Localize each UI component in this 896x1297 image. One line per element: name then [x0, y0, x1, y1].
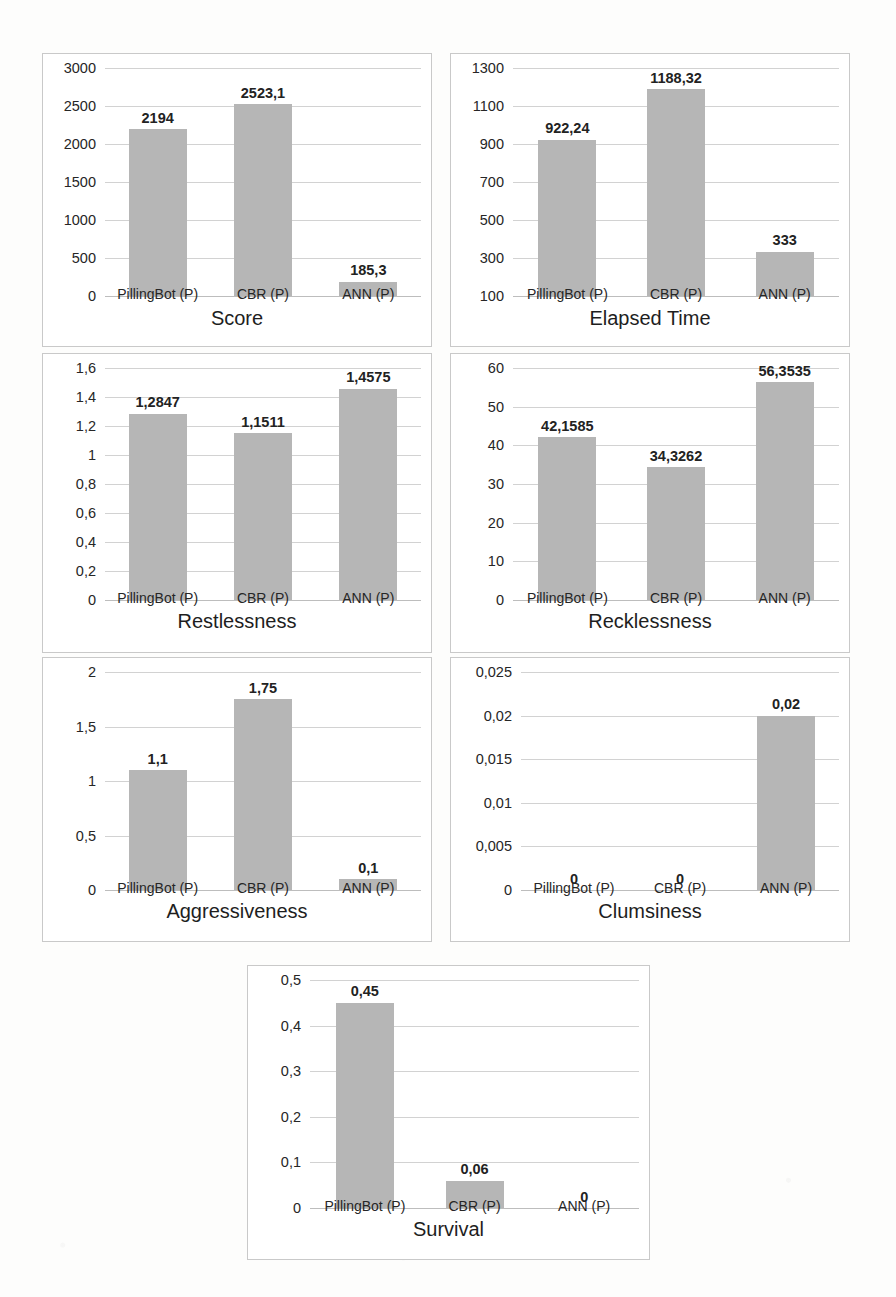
- x-axis-tick-label: ANN (P): [316, 880, 421, 896]
- x-axis-tick-label: PillingBot (P): [105, 590, 210, 606]
- x-axis-tick-label: CBR (P): [622, 286, 731, 302]
- y-axis-tick-label: 100: [480, 289, 504, 304]
- bar-slot: 1,2847: [105, 368, 210, 600]
- bar[interactable]: [647, 467, 705, 600]
- x-axis-tick-label: CBR (P): [210, 880, 315, 896]
- y-axis-tick-label: 0: [88, 883, 96, 898]
- bar[interactable]: [234, 433, 292, 600]
- bar-value-label: 0,45: [351, 984, 379, 999]
- bar-series-clumsiness: 000,02: [521, 672, 839, 890]
- x-axis-tick-label: ANN (P): [733, 880, 839, 896]
- bar[interactable]: [234, 699, 292, 890]
- x-axis-tick-label: CBR (P): [627, 880, 733, 896]
- bar-slot: 0: [529, 980, 639, 1208]
- chart-panel-survival: 00,10,20,30,40,50,450,060PillingBot (P)C…: [247, 965, 650, 1260]
- bar[interactable]: [756, 382, 814, 600]
- bar-series-recklessness: 42,158534,326256,3535: [513, 368, 839, 600]
- chart-title-score: Score: [43, 307, 431, 330]
- x-axis-survival: PillingBot (P)CBR (P)ANN (P): [310, 1198, 639, 1214]
- y-axis-tick-label: 3000: [64, 61, 96, 76]
- y-axis-tick-label: 0: [496, 593, 504, 608]
- y-axis-tick-label: 0,2: [76, 564, 96, 579]
- bar-value-label: 2523,1: [241, 86, 285, 101]
- bar-slot: 2194: [105, 68, 210, 296]
- x-axis-tick-label: ANN (P): [730, 286, 839, 302]
- bar-value-label: 56,3535: [758, 364, 810, 379]
- x-axis-tick-label: CBR (P): [210, 590, 315, 606]
- y-axis-tick-label: 1300: [472, 61, 504, 76]
- y-axis-tick-label: 500: [480, 213, 504, 228]
- bar-slot: 0,45: [310, 980, 420, 1208]
- bar[interactable]: [129, 414, 187, 600]
- plot-area-clumsiness: 00,0050,010,0150,020,025000,02: [521, 672, 839, 890]
- bar[interactable]: [647, 89, 705, 296]
- bar-slot: 1188,32: [622, 68, 731, 296]
- bar[interactable]: [129, 770, 187, 890]
- bar-value-label: 1,2847: [135, 395, 179, 410]
- y-axis-tick-label: 0,015: [476, 752, 512, 767]
- bar-value-label: 0,1: [358, 861, 378, 876]
- chart-panel-recklessness: 010203040506042,158534,326256,3535Pillin…: [450, 353, 850, 653]
- x-axis-tick-label: CBR (P): [210, 286, 315, 302]
- bar-slot: 185,3: [316, 68, 421, 296]
- bar[interactable]: [757, 716, 815, 890]
- chart-title-recklessness: Recklessness: [451, 610, 849, 633]
- x-axis-tick-label: PillingBot (P): [513, 590, 622, 606]
- bar-value-label: 1,1511: [241, 415, 285, 430]
- x-axis-elapsed-time: PillingBot (P)CBR (P)ANN (P): [513, 286, 839, 302]
- y-axis-tick-label: 2500: [64, 99, 96, 114]
- bar-slot: 922,24: [513, 68, 622, 296]
- y-axis-tick-label: 1,5: [76, 719, 96, 734]
- chart-body-elapsed-time: 10030050070090011001300922,241188,32333P…: [451, 54, 849, 346]
- chart-body-score: 05001000150020002500300021942523,1185,3P…: [43, 54, 431, 346]
- y-axis-tick-label: 1: [88, 448, 96, 463]
- chart-body-clumsiness: 00,0050,010,0150,020,025000,02PillingBot…: [451, 658, 849, 941]
- y-axis-tick-label: 0: [88, 289, 96, 304]
- chart-title-survival: Survival: [248, 1218, 649, 1241]
- x-axis-tick-label: CBR (P): [622, 590, 731, 606]
- y-axis-tick-label: 1,6: [76, 361, 96, 376]
- chart-title-clumsiness: Clumsiness: [451, 900, 849, 923]
- bar-series-aggressiveness: 1,11,750,1: [105, 672, 421, 890]
- bar-slot: 56,3535: [730, 368, 839, 600]
- bar-value-label: 1,4575: [346, 370, 390, 385]
- chart-body-survival: 00,10,20,30,40,50,450,060PillingBot (P)C…: [248, 966, 649, 1259]
- chart-body-recklessness: 010203040506042,158534,326256,3535Pillin…: [451, 354, 849, 652]
- bar-slot: 42,1585: [513, 368, 622, 600]
- bar[interactable]: [339, 389, 397, 600]
- bar-slot: 0,02: [733, 672, 839, 890]
- bar-value-label: 42,1585: [541, 419, 593, 434]
- bar-series-survival: 0,450,060: [310, 980, 639, 1208]
- bar-value-label: 185,3: [350, 263, 386, 278]
- y-axis-tick-label: 1100: [473, 99, 504, 114]
- y-axis-tick-label: 0,2: [281, 1110, 301, 1125]
- bar[interactable]: [129, 129, 187, 296]
- y-axis-tick-label: 10: [488, 554, 504, 569]
- bar[interactable]: [538, 140, 596, 296]
- bar[interactable]: [538, 437, 596, 600]
- y-axis-tick-label: 0,5: [76, 828, 96, 843]
- y-axis-tick-label: 0,005: [476, 839, 512, 854]
- chart-title-elapsed-time: Elapsed Time: [451, 307, 849, 330]
- x-axis-tick-label: CBR (P): [420, 1198, 530, 1214]
- y-axis-tick-label: 1000: [64, 213, 96, 228]
- chart-grid: 05001000150020002500300021942523,1185,3P…: [0, 0, 896, 1297]
- y-axis-tick-label: 50: [488, 399, 504, 414]
- plot-area-elapsed-time: 10030050070090011001300922,241188,32333: [513, 68, 839, 296]
- bar-slot: 0: [521, 672, 627, 890]
- bar[interactable]: [234, 104, 292, 296]
- bar-slot: 2523,1: [210, 68, 315, 296]
- x-axis-score: PillingBot (P)CBR (P)ANN (P): [105, 286, 421, 302]
- plot-area-recklessness: 010203040506042,158534,326256,3535: [513, 368, 839, 600]
- chart-body-restlessness: 00,20,40,60,811,21,41,61,28471,15111,457…: [43, 354, 431, 652]
- y-axis-tick-label: 0: [504, 883, 512, 898]
- bar-slot: 0,06: [420, 980, 530, 1208]
- y-axis-tick-label: 1: [88, 774, 96, 789]
- bar-value-label: 922,24: [545, 121, 589, 136]
- chart-title-aggressiveness: Aggressiveness: [43, 900, 431, 923]
- bar-slot: 34,3262: [622, 368, 731, 600]
- bar-slot: 1,75: [210, 672, 315, 890]
- y-axis-tick-label: 1,2: [76, 419, 96, 434]
- y-axis-tick-label: 1,4: [76, 390, 96, 405]
- bar[interactable]: [336, 1003, 394, 1208]
